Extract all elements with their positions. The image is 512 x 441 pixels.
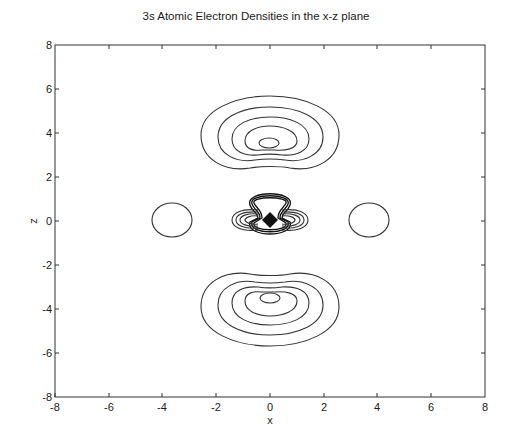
y-tick-label: -6 (42, 347, 52, 359)
x-tick-label: -2 (211, 401, 221, 413)
left-ring-contour (152, 203, 192, 237)
x-tick-label: 4 (374, 401, 380, 413)
y-axis-label: z (27, 218, 39, 224)
right-ring-contour (349, 203, 389, 237)
contour-plot: -8 -6 -4 -2 0 2 4 6 8 x 8 6 4 2 0 -2 -4 … (0, 0, 512, 441)
y-tick-label: 2 (46, 171, 52, 183)
y-tick-label: -4 (42, 303, 52, 315)
y-tick-label: -8 (42, 391, 52, 403)
x-tick-label: 6 (428, 401, 434, 413)
x-tick-label: -4 (157, 401, 167, 413)
x-tick-label: 8 (482, 401, 488, 413)
core-contours (232, 194, 308, 234)
y-tick-label: -2 (42, 259, 52, 271)
x-tick-label: 0 (267, 401, 273, 413)
upper-lobe-contours (201, 96, 339, 169)
y-tick-label: 4 (46, 127, 52, 139)
x-tick-label: -6 (104, 401, 114, 413)
y-tick-label: 8 (46, 39, 52, 51)
y-tick-label: 0 (46, 215, 52, 227)
x-tick-label: 2 (321, 401, 327, 413)
lower-lobe-contours (201, 273, 339, 346)
y-tick-label: 6 (46, 83, 52, 95)
core-center-diamond (262, 212, 278, 228)
x-axis-label: x (267, 414, 273, 426)
x-axis (55, 45, 431, 397)
